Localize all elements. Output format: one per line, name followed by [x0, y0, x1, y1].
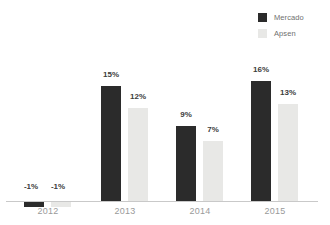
plot-area: -1% -1% 2012 15% 12% 2013 9% 7% 2014 16%… — [0, 0, 330, 225]
bar-label-apsen-2015: 13% — [271, 88, 305, 97]
bar-mercado-2013 — [101, 86, 121, 201]
bar-group-2013: 15% 12% 2013 — [95, 0, 155, 225]
bar-mercado-2015 — [251, 81, 271, 201]
bar-group-2012: -1% -1% 2012 — [18, 0, 78, 225]
bar-label-mercado-2013: 15% — [94, 70, 128, 79]
bar-chart: Mercado Apsen -1% -1% 2012 15% 12% 2013 … — [0, 0, 330, 225]
x-tick-label-2015: 2015 — [245, 206, 305, 216]
bar-group-2015: 16% 13% 2015 — [245, 0, 305, 225]
bar-label-apsen-2012: -1% — [41, 182, 75, 191]
bar-label-apsen-2013: 12% — [121, 92, 155, 101]
x-tick-label-2013: 2013 — [95, 206, 155, 216]
bar-label-mercado-2014: 9% — [169, 110, 203, 119]
bar-label-mercado-2015: 16% — [244, 65, 278, 74]
bar-group-2014: 9% 7% 2014 — [170, 0, 230, 225]
bar-mercado-2014 — [176, 126, 196, 201]
bar-apsen-2015 — [278, 104, 298, 201]
bar-label-apsen-2014: 7% — [196, 125, 230, 134]
x-tick-label-2012: 2012 — [18, 206, 78, 216]
bar-apsen-2014 — [203, 141, 223, 201]
x-tick-label-2014: 2014 — [170, 206, 230, 216]
bar-apsen-2013 — [128, 108, 148, 201]
